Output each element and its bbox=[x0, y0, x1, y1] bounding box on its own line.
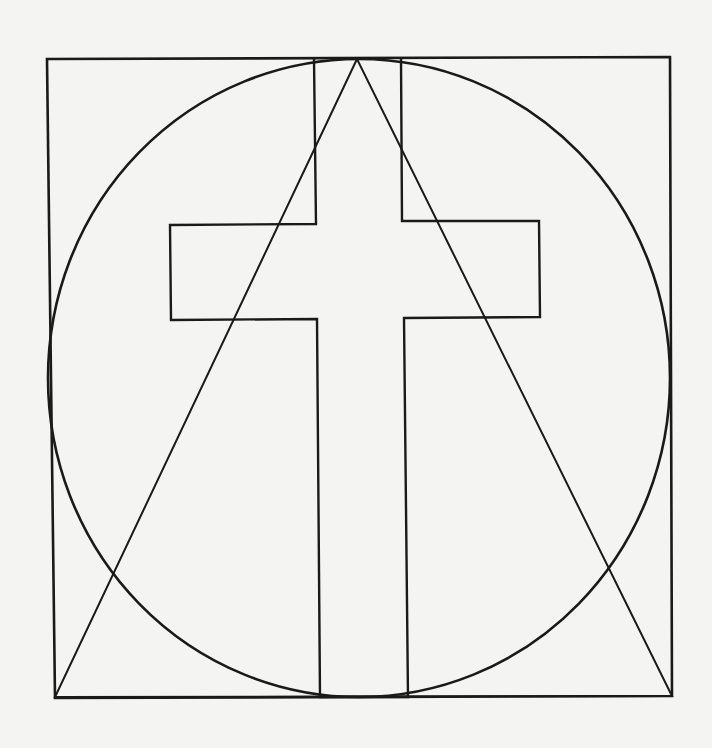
inscribed-circle bbox=[48, 59, 670, 697]
cross bbox=[170, 59, 540, 697]
diagram-canvas bbox=[0, 0, 712, 748]
cross-circle-triangle-figure bbox=[0, 0, 712, 748]
